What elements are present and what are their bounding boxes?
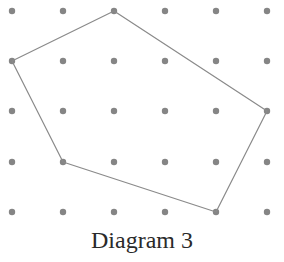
grid-dot <box>264 159 270 165</box>
grid-dot <box>111 108 117 114</box>
grid-dot <box>60 108 66 114</box>
grid-dot <box>162 209 168 215</box>
grid-dot <box>162 108 168 114</box>
grid-dot <box>264 58 270 64</box>
grid-dot <box>162 8 168 14</box>
grid-dot <box>9 8 15 14</box>
grid-dot <box>264 209 270 215</box>
grid-dot <box>111 58 117 64</box>
grid-dot <box>111 209 117 215</box>
pentagon-shape <box>12 11 267 212</box>
grid-dot <box>162 159 168 165</box>
grid-dot <box>9 209 15 215</box>
grid-dot <box>111 159 117 165</box>
grid-dot <box>9 108 15 114</box>
grid-dot <box>9 159 15 165</box>
grid-dot <box>213 58 219 64</box>
dot-grid-diagram <box>0 0 284 262</box>
grid-dot <box>264 8 270 14</box>
grid-dot <box>213 159 219 165</box>
grid-dot <box>162 58 168 64</box>
diagram-caption: Diagram 3 <box>0 226 284 254</box>
grid-dot <box>60 209 66 215</box>
grid-dot <box>213 8 219 14</box>
grid-dot <box>60 8 66 14</box>
grid-dots <box>9 8 270 215</box>
grid-dot <box>60 58 66 64</box>
grid-dot <box>213 108 219 114</box>
